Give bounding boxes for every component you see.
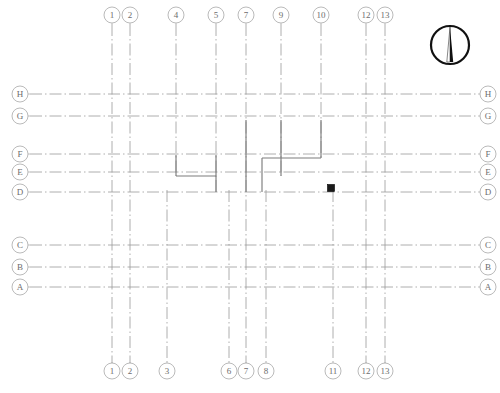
grid-bubble-left-F-label: F	[17, 149, 22, 159]
grid-bubble-bottom-6-label: 6	[227, 366, 232, 376]
grid-bubble-left-D-label: D	[17, 187, 24, 197]
horizontal-gridlines-group	[30, 94, 478, 287]
grid-bubble-top-4-label: 4	[174, 10, 179, 20]
grid-bubble-bottom-1-label: 1	[110, 366, 115, 376]
grid-bubble-bottom-11-label: 11	[329, 366, 338, 376]
grid-bubble-bottom-13-label: 13	[381, 366, 391, 376]
vertical-gridlines-group	[112, 24, 385, 370]
grid-bubble-top-7-label: 7	[244, 10, 249, 20]
left-grid-bubbles: HGFEDCBA	[12, 86, 30, 295]
grid-bubble-bottom-12-label: 12	[362, 366, 371, 376]
grid-bubble-bottom-2-label: 2	[128, 366, 133, 376]
north-arrow	[431, 26, 469, 64]
markers-group	[328, 185, 335, 192]
right-grid-bubbles: HGFEDCBA	[478, 86, 496, 295]
bottom-grid-bubbles: 123678111213	[104, 362, 393, 379]
grid-bubble-top-1-label: 1	[110, 10, 115, 20]
grid-bubble-left-G-label: G	[17, 111, 24, 121]
grid-bubble-top-2-label: 2	[128, 10, 133, 20]
grid-bubble-left-B-label: B	[17, 262, 23, 272]
grid-bubble-bottom-8-label: 8	[264, 366, 269, 376]
grid-bubble-top-10-label: 10	[317, 10, 327, 20]
grid-bubble-top-9-label: 9	[279, 10, 284, 20]
grid-bubble-right-H-label: H	[485, 89, 492, 99]
grid-bubble-right-G-label: G	[485, 111, 492, 121]
grid-bubble-right-C-label: C	[485, 240, 491, 250]
grid-bubble-right-D-label: D	[485, 187, 492, 197]
grid-bubble-bottom-7-label: 7	[244, 366, 249, 376]
grid-bubble-top-13-label: 13	[381, 10, 391, 20]
grid-bubble-right-B-label: B	[485, 262, 491, 272]
grid-bubble-right-F-label: F	[485, 149, 490, 159]
wall-segments-group	[176, 120, 321, 192]
grid-bubble-right-E-label: E	[485, 167, 491, 177]
column-grid-drawing: 124579101213 123678111213 HGFEDCBA HGFED…	[0, 0, 500, 393]
grid-bubble-bottom-3-label: 3	[165, 366, 170, 376]
grid-bubble-left-A-label: A	[17, 282, 24, 292]
top-grid-bubbles: 124579101213	[104, 7, 393, 24]
grid-bubble-top-5-label: 5	[214, 10, 219, 20]
grid-bubble-left-C-label: C	[17, 240, 23, 250]
grid-bubble-right-A-label: A	[485, 282, 492, 292]
grid-bubble-top-12-label: 12	[362, 10, 371, 20]
grid-bubble-left-H-label: H	[17, 89, 24, 99]
grid-bubble-left-E-label: E	[17, 167, 23, 177]
column-marker	[328, 185, 335, 192]
